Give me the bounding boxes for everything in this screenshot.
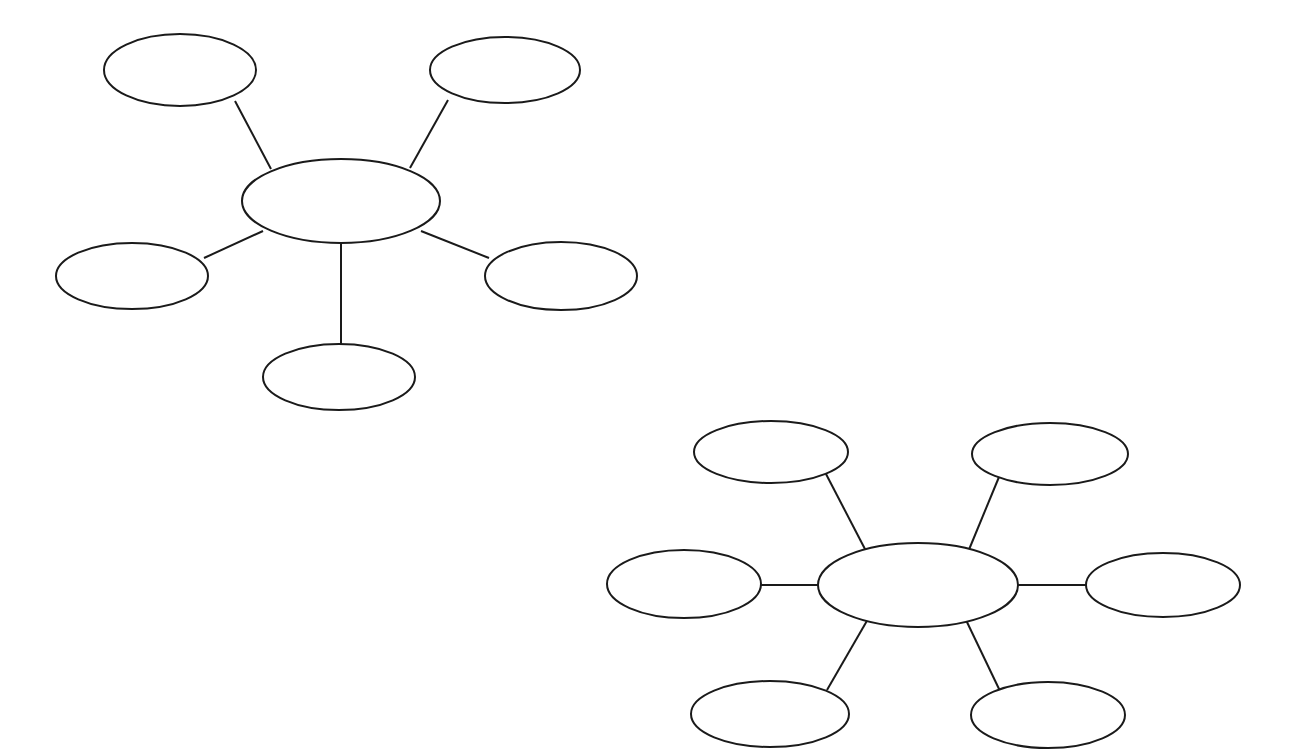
six-spoke-bubble-map bbox=[607, 421, 1240, 748]
satellite-bubble-shape[interactable] bbox=[971, 682, 1125, 748]
satellite-bubble-shape[interactable] bbox=[104, 34, 256, 106]
connector-line bbox=[826, 474, 866, 551]
center-bubble-shape[interactable] bbox=[242, 159, 440, 243]
connector-line bbox=[410, 100, 448, 168]
satellite-bubble-left[interactable] bbox=[607, 550, 761, 618]
satellite-bubble-right[interactable] bbox=[1086, 553, 1240, 617]
connector-line bbox=[968, 477, 999, 552]
satellite-bubble-shape[interactable] bbox=[972, 423, 1128, 485]
connector-line bbox=[827, 619, 868, 690]
satellite-bubble-shape[interactable] bbox=[691, 681, 849, 747]
satellite-bubble-shape[interactable] bbox=[263, 344, 415, 410]
satellite-bubble-top-right[interactable] bbox=[972, 423, 1128, 485]
connector-line bbox=[966, 620, 1000, 691]
satellite-bubble-shape[interactable] bbox=[485, 242, 637, 310]
diagram-canvas-wrapper bbox=[0, 0, 1297, 754]
satellite-bubble-bottom-right[interactable] bbox=[971, 682, 1125, 748]
bubble-map-canvas bbox=[0, 0, 1297, 754]
center-bubble[interactable] bbox=[818, 543, 1018, 627]
satellite-bubble-top-right[interactable] bbox=[430, 37, 580, 103]
diagrams-root bbox=[56, 34, 1240, 748]
satellite-bubble-right[interactable] bbox=[485, 242, 637, 310]
connector-line bbox=[421, 231, 489, 258]
center-bubble-shape[interactable] bbox=[818, 543, 1018, 627]
satellite-bubble-shape[interactable] bbox=[1086, 553, 1240, 617]
satellite-bubble-bottom[interactable] bbox=[263, 344, 415, 410]
satellite-bubble-shape[interactable] bbox=[607, 550, 761, 618]
connector-line bbox=[235, 101, 271, 169]
satellite-bubble-top-left[interactable] bbox=[694, 421, 848, 483]
satellite-bubble-shape[interactable] bbox=[694, 421, 848, 483]
satellite-bubble-top-left[interactable] bbox=[104, 34, 256, 106]
satellite-bubble-left[interactable] bbox=[56, 243, 208, 309]
satellite-bubble-bottom-left[interactable] bbox=[691, 681, 849, 747]
five-spoke-bubble-map bbox=[56, 34, 637, 410]
connector-line bbox=[204, 231, 263, 258]
satellite-bubble-shape[interactable] bbox=[430, 37, 580, 103]
center-bubble[interactable] bbox=[242, 159, 440, 243]
satellite-bubble-shape[interactable] bbox=[56, 243, 208, 309]
